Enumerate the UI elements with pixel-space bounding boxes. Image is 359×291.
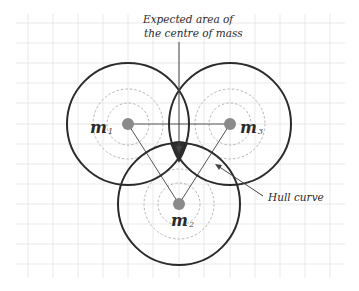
- m3-label: m: [240, 118, 257, 137]
- m1-dot: [122, 118, 134, 130]
- centre-of-mass-diagram: Expected area of the centre of mass Hull…: [0, 0, 359, 291]
- m2-dot: [173, 198, 185, 210]
- m2-label: m: [171, 211, 188, 230]
- hull-curve-label: Hull curve: [267, 191, 324, 203]
- m1-label: m: [90, 118, 107, 137]
- hull-pointer-line: [218, 166, 263, 196]
- centre-annotation-line1: Expected area of: [142, 13, 235, 25]
- m3-dot: [224, 118, 236, 130]
- centre-annotation-line2: the centre of mass: [144, 27, 243, 39]
- m3-subscript: 3: [258, 127, 263, 136]
- m2-subscript: 2: [188, 220, 194, 229]
- m1-subscript: 1: [108, 127, 113, 136]
- hull-pointer-arrowhead: [215, 164, 222, 170]
